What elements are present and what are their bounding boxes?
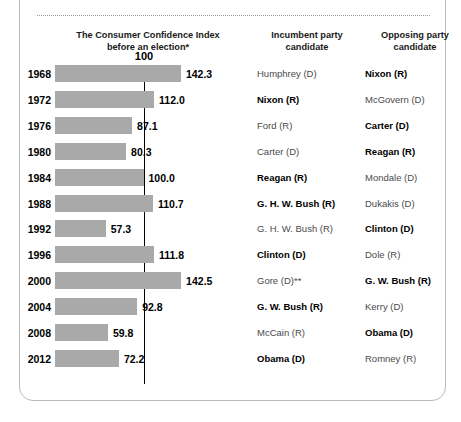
opposing-candidate: G. W. Bush (R) xyxy=(365,275,461,286)
value-label: 112.0 xyxy=(159,94,185,106)
value-bar xyxy=(55,91,154,108)
value-label: 57.3 xyxy=(111,223,131,235)
chart-row: 197687.1Ford (R)Carter (D) xyxy=(20,114,447,140)
incumbent-candidate: Humphrey (D) xyxy=(257,68,362,79)
chart-row: 1996111.8Clinton (D)Dole (R) xyxy=(20,243,447,269)
row-year-label: 1984 xyxy=(20,172,51,184)
opposing-candidate: Kerry (D) xyxy=(365,301,461,312)
value-bar xyxy=(55,169,144,186)
opposing-candidate: Clinton (D) xyxy=(365,223,461,234)
chart-row: 201272.2Obama (D)Romney (R) xyxy=(20,347,447,373)
value-bar xyxy=(55,195,153,212)
opposing-candidate: Mondale (D) xyxy=(365,172,461,183)
value-bar xyxy=(55,143,126,160)
opposing-candidate: Reagan (R) xyxy=(365,146,461,157)
incumbent-candidate: Nixon (R) xyxy=(257,94,362,105)
opposing-candidate: Carter (D) xyxy=(365,120,461,131)
value-bar xyxy=(55,117,132,134)
chart-row: 1972112.0Nixon (R)McGovern (D) xyxy=(20,88,447,114)
value-label: 110.7 xyxy=(158,198,184,210)
opposing-candidate: Nixon (R) xyxy=(365,68,461,79)
value-bar xyxy=(55,298,137,315)
value-bar xyxy=(55,324,108,341)
row-year-label: 1972 xyxy=(20,94,51,106)
value-bar xyxy=(55,65,181,82)
incumbent-candidate: Gore (D)** xyxy=(257,275,362,286)
incumbent-candidate: Reagan (R) xyxy=(257,172,362,183)
value-label: 80.3 xyxy=(131,146,151,158)
incumbent-candidate: Clinton (D) xyxy=(257,249,362,260)
value-label: 59.8 xyxy=(113,327,133,339)
incumbent-candidate: Carter (D) xyxy=(257,146,362,157)
opposing-candidate: Obama (D) xyxy=(365,327,461,338)
value-label: 142.3 xyxy=(186,68,212,80)
value-label: 72.2 xyxy=(124,353,144,365)
row-year-label: 2000 xyxy=(20,275,51,287)
row-year-label: 1976 xyxy=(20,120,51,132)
opposing-candidate: McGovern (D) xyxy=(365,94,461,105)
opposing-candidate: Dole (R) xyxy=(365,249,461,260)
incumbent-candidate: G. H. W. Bush (R) xyxy=(257,223,362,234)
row-year-label: 2008 xyxy=(20,327,51,339)
incumbent-candidate: G. H. W. Bush (R) xyxy=(257,198,362,209)
value-bar xyxy=(55,350,119,367)
row-year-label: 1996 xyxy=(20,249,51,261)
row-year-label: 2004 xyxy=(20,301,51,313)
opposing-candidate: Romney (R) xyxy=(365,353,461,364)
row-year-label: 2012 xyxy=(20,353,51,365)
value-bar xyxy=(55,272,181,289)
reference-line-label: 100 xyxy=(124,50,164,62)
chart-row: 198080.3Carter (D)Reagan (R) xyxy=(20,140,447,166)
value-label: 100.0 xyxy=(149,172,175,184)
bar-chart-plot: 100 1968142.3Humphrey (D)Nixon (R)197211… xyxy=(20,0,447,402)
reference-line-tail xyxy=(144,373,146,384)
incumbent-candidate: G. W. Bush (R) xyxy=(257,301,362,312)
chart-row: 1988110.7G. H. W. Bush (R)Dukakis (D) xyxy=(20,192,447,218)
chart-row: 200859.8McCain (R)Obama (D) xyxy=(20,321,447,347)
incumbent-candidate: Obama (D) xyxy=(257,353,362,364)
row-year-label: 1980 xyxy=(20,146,51,158)
chart-card: Consumer Confidence The Consumer Confide… xyxy=(19,0,446,401)
incumbent-candidate: Ford (R) xyxy=(257,120,362,131)
incumbent-candidate: McCain (R) xyxy=(257,327,362,338)
value-label: 111.8 xyxy=(159,249,184,261)
chart-row: 2000142.5Gore (D)**G. W. Bush (R) xyxy=(20,269,447,295)
chart-row: 1968142.3Humphrey (D)Nixon (R) xyxy=(20,62,447,88)
row-year-label: 1968 xyxy=(20,68,51,80)
opposing-candidate: Dukakis (D) xyxy=(365,198,461,209)
chart-row: 1984100.0Reagan (R)Mondale (D) xyxy=(20,166,447,192)
value-label: 87.1 xyxy=(137,120,157,132)
chart-row: 199257.3G. H. W. Bush (R)Clinton (D) xyxy=(20,217,447,243)
row-year-label: 1992 xyxy=(20,223,51,235)
value-label: 142.5 xyxy=(186,275,212,287)
row-year-label: 1988 xyxy=(20,198,51,210)
value-bar xyxy=(55,246,154,263)
chart-row: 200492.8G. W. Bush (R)Kerry (D) xyxy=(20,295,447,321)
value-label: 92.8 xyxy=(142,301,162,313)
value-bar xyxy=(55,220,106,237)
